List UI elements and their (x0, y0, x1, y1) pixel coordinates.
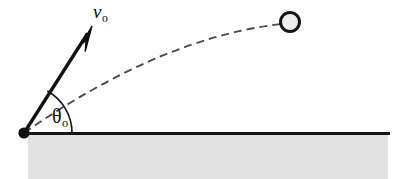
diagram-canvas (0, 0, 400, 179)
velocity-subscript: o (102, 12, 108, 25)
angle-label: θo (52, 106, 68, 126)
velocity-label: vo (93, 2, 107, 21)
ground-shaded-region (28, 135, 388, 179)
angle-symbol: θ (52, 105, 62, 127)
projectile-ball (281, 13, 300, 32)
angle-subscript: o (62, 116, 68, 130)
launch-point (18, 127, 29, 138)
projectile-diagram: vo θo (0, 0, 400, 179)
velocity-symbol: v (93, 1, 101, 22)
